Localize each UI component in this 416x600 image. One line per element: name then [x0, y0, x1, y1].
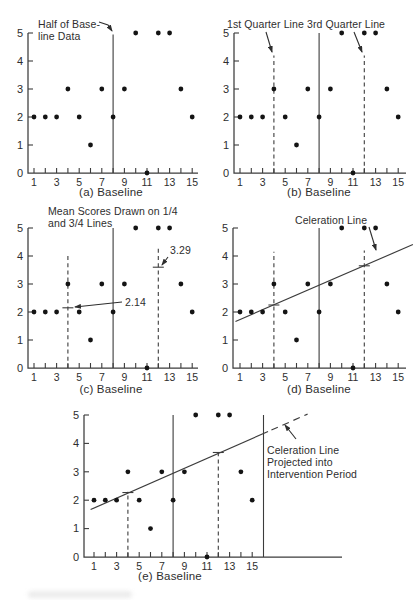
annotations: Celeration LineProjected intoInterventio… — [267, 425, 357, 480]
data-point — [328, 282, 333, 287]
chart-d-celeration-line: 01234513579111315Celeration Line — [208, 196, 416, 388]
caption-e: (e) Baseline — [24, 570, 316, 582]
data-point — [190, 115, 195, 120]
data-point — [126, 469, 131, 474]
svg-text:4: 4 — [223, 55, 229, 67]
data-point — [272, 87, 277, 92]
data-point — [114, 498, 119, 503]
data-point — [159, 469, 164, 474]
data-point — [272, 282, 277, 287]
data-point — [32, 115, 37, 120]
chart-e-projected-line: 01234513579111315Celeration LineProjecte… — [24, 404, 416, 576]
svg-text:3: 3 — [222, 278, 228, 290]
data-point — [250, 498, 255, 503]
svg-text:2: 2 — [17, 306, 23, 318]
celeration-line-figure: 01234513579111315Half of Base-line Data … — [0, 0, 416, 600]
chart-c-mean-scores: 01234513579111315Mean Scores Drawn on 1/… — [0, 196, 208, 388]
svg-text:3: 3 — [54, 371, 60, 383]
caption-d: (d) Baseline — [208, 383, 416, 395]
svg-text:0: 0 — [223, 167, 229, 179]
svg-text:7: 7 — [99, 371, 105, 383]
svg-text:2: 2 — [73, 494, 79, 506]
svg-text:11: 11 — [348, 371, 359, 383]
svg-text:9: 9 — [327, 371, 333, 383]
svg-text:0: 0 — [73, 551, 79, 563]
svg-text:1: 1 — [73, 522, 79, 534]
data-point — [362, 226, 367, 231]
data-point — [339, 31, 344, 36]
data-point — [205, 555, 210, 560]
svg-text:1: 1 — [237, 371, 243, 383]
svg-text:3.29: 3.29 — [170, 244, 191, 256]
svg-text:15: 15 — [392, 371, 404, 383]
data-point — [260, 115, 265, 120]
construction-lines — [274, 228, 364, 368]
data-point — [66, 282, 71, 287]
data-point — [294, 338, 299, 343]
svg-text:5: 5 — [76, 371, 82, 383]
data-point — [145, 171, 150, 176]
data-point — [227, 413, 232, 418]
data-point — [339, 226, 344, 231]
data-point — [317, 115, 322, 120]
svg-text:1: 1 — [31, 371, 37, 383]
axes: 01234513579111315 — [17, 27, 198, 188]
data-point — [351, 171, 356, 176]
svg-text:3: 3 — [17, 83, 23, 95]
data-point — [32, 310, 37, 315]
data-point — [122, 282, 127, 287]
data-point — [317, 310, 322, 315]
svg-text:0: 0 — [17, 167, 23, 179]
svg-text:4: 4 — [222, 250, 228, 262]
svg-text:4: 4 — [17, 55, 23, 67]
data-point — [305, 282, 310, 287]
svg-text:1st Quarter Line: 1st Quarter Line — [227, 18, 304, 30]
data-point — [171, 498, 176, 503]
svg-text:9: 9 — [121, 371, 127, 383]
caption-a: (a) Baseline — [0, 186, 208, 198]
annotations: Half of Base-line Data — [38, 18, 112, 42]
data-point — [283, 310, 288, 315]
data-point — [103, 498, 108, 503]
svg-text:5: 5 — [73, 409, 79, 421]
svg-text:5: 5 — [17, 27, 23, 39]
svg-text:Celeration LineProjected intoI: Celeration LineProjected intoInterventio… — [267, 444, 357, 480]
annotations: Mean Scores Drawn on 1/4and 3/4 Lines2.1… — [48, 205, 191, 308]
data-point — [193, 413, 198, 418]
svg-text:0: 0 — [17, 362, 23, 374]
chart-a-baseline-half-line: 01234513579111315Half of Base-line Data — [0, 0, 208, 192]
data-point — [373, 31, 378, 36]
data-point — [156, 226, 161, 231]
data-point — [385, 282, 390, 287]
svg-text:2: 2 — [223, 111, 229, 123]
data-point — [396, 115, 401, 120]
svg-text:13: 13 — [164, 371, 176, 383]
data-point — [111, 310, 116, 315]
data-point — [283, 115, 288, 120]
construction-lines — [274, 33, 364, 173]
svg-text:5: 5 — [282, 371, 288, 383]
svg-text:3: 3 — [73, 466, 79, 478]
data-point — [373, 226, 378, 231]
data-point — [99, 87, 104, 92]
data-point — [156, 31, 161, 36]
svg-text:Celeration Line: Celeration Line — [295, 214, 367, 226]
caption-b: (b) Baseline — [208, 186, 416, 198]
annotations: 1st Quarter Line3rd Quarter Line — [227, 18, 385, 52]
construction-lines — [128, 415, 264, 557]
svg-text:1: 1 — [17, 334, 23, 346]
data-point — [362, 31, 367, 36]
axes: 01234513579111315 — [222, 222, 406, 383]
svg-text:5: 5 — [17, 222, 23, 234]
data-point — [260, 310, 265, 315]
caption-c: (c) Baseline — [0, 383, 208, 395]
data-point — [239, 469, 244, 474]
data-point — [54, 310, 59, 315]
data-point — [137, 498, 142, 503]
svg-text:Mean Scores Drawn on 1/4and 3/: Mean Scores Drawn on 1/4and 3/4 Lines — [48, 205, 178, 229]
svg-text:3: 3 — [223, 83, 229, 95]
data-point — [190, 310, 195, 315]
svg-text:13: 13 — [370, 371, 382, 383]
data-point — [167, 31, 172, 36]
svg-text:0: 0 — [222, 362, 228, 374]
